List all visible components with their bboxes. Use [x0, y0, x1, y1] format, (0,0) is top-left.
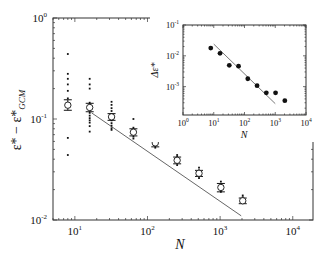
inset-point — [255, 83, 260, 88]
sample-dot — [111, 122, 113, 124]
mean-marker — [86, 103, 94, 111]
sample-dot — [67, 84, 69, 86]
sample-dot — [89, 117, 91, 119]
sample-dot — [242, 195, 244, 197]
mean-marker — [217, 183, 225, 191]
sample-dot — [89, 125, 91, 127]
sample-dot — [89, 88, 91, 90]
inset-x-axis-title: N — [240, 129, 249, 140]
sample-dot — [198, 167, 200, 169]
x-tick-label: 102 — [140, 224, 155, 237]
inset-background — [150, 8, 316, 142]
y-tick-label: 100 — [33, 11, 48, 24]
mean-marker — [173, 157, 181, 164]
sample-dot — [89, 131, 91, 133]
sample-dot — [133, 138, 135, 140]
main-x-axis-title: N — [174, 237, 185, 252]
mean-marker — [64, 100, 72, 111]
sample-dot — [111, 110, 113, 112]
sample-dot — [111, 104, 113, 106]
inset-point — [273, 90, 278, 95]
sample-dot — [67, 53, 69, 55]
chart-figure: 10110210310410-210-1100 N ε* − ε*GCM 100… — [0, 0, 321, 259]
sample-dot — [176, 154, 178, 156]
x-tick-label: 101 — [68, 224, 83, 237]
inset-y-axis-title: Δε* — [149, 63, 160, 79]
sample-dot — [67, 90, 69, 92]
sample-dot — [133, 118, 135, 120]
sample-dot — [67, 137, 69, 139]
sample-dot — [111, 129, 113, 131]
inset-point — [264, 90, 269, 95]
sample-dot — [89, 84, 91, 86]
mean-marker — [239, 198, 247, 204]
sample-dot — [176, 164, 178, 166]
y-tick-label: 10-2 — [30, 213, 47, 226]
y-tick-label: 10-1 — [30, 112, 47, 125]
inset-point — [245, 76, 250, 81]
sample-dot — [67, 154, 69, 156]
sample-dot — [89, 119, 91, 121]
mean-marker — [129, 129, 137, 136]
inset-point — [227, 63, 232, 68]
mean-marker — [108, 114, 116, 121]
inset-point — [208, 46, 213, 51]
main-y-axis-title-base: ε* − ε* — [9, 110, 24, 151]
sample-dot — [111, 107, 113, 109]
main-y-axis-title-sub: GCM — [17, 89, 27, 110]
x-tick-label: 103 — [213, 224, 228, 237]
sample-dot — [111, 125, 113, 127]
sample-dot — [111, 127, 113, 129]
sample-dot — [67, 73, 69, 75]
sample-dot — [67, 97, 69, 99]
mean-marker — [195, 170, 203, 176]
x-tick-label: 104 — [286, 224, 301, 237]
sample-dot — [89, 78, 91, 80]
inset-point — [236, 64, 241, 69]
inset-point — [218, 51, 223, 56]
sample-dot — [89, 115, 91, 117]
sample-dot — [89, 122, 91, 124]
sample-dot — [220, 181, 222, 183]
sample-dot — [67, 78, 69, 80]
sample-dot — [198, 177, 200, 179]
inset-plot: 10010110210310410-310-210-1 N Δε* — [149, 8, 316, 142]
sample-dot — [111, 101, 113, 103]
main-y-axis-title: ε* − ε*GCM — [9, 89, 27, 150]
inset-point — [282, 98, 287, 103]
